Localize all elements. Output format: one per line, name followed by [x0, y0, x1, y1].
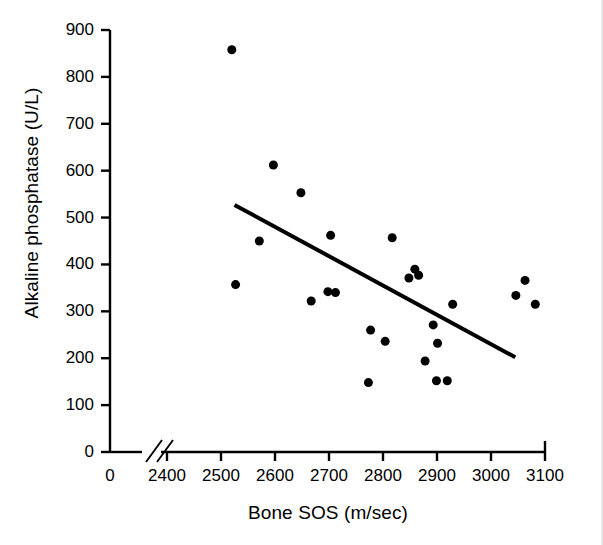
x-tick-label: 3100 — [526, 466, 564, 486]
x-tick-label: 2500 — [202, 466, 240, 486]
data-point — [366, 326, 375, 335]
data-point — [404, 274, 413, 283]
data-point — [414, 271, 423, 280]
data-point — [511, 291, 520, 300]
data-point — [521, 276, 530, 285]
x-tick-label: 2600 — [256, 466, 294, 486]
data-point — [323, 287, 332, 296]
x-axis-title-text: Bone SOS (m/sec) — [248, 502, 408, 524]
data-point — [531, 300, 540, 309]
x-tick-label: 2800 — [364, 466, 402, 486]
data-point — [429, 320, 438, 329]
data-point — [421, 357, 430, 366]
data-point — [255, 237, 264, 246]
y-tick-label: 700 — [66, 114, 94, 134]
axes-group — [101, 30, 545, 462]
data-point — [432, 376, 441, 385]
data-point — [448, 300, 457, 309]
y-tick-label: 300 — [66, 301, 94, 321]
y-tick-label: 900 — [66, 20, 94, 40]
x-tick-label: 2900 — [418, 466, 456, 486]
data-point — [364, 378, 373, 387]
data-point — [296, 188, 305, 197]
data-point — [227, 45, 236, 54]
data-point — [443, 376, 452, 385]
data-point — [326, 231, 335, 240]
y-tick-label: 600 — [66, 161, 94, 181]
y-tick-label: 800 — [66, 67, 94, 87]
y-tick-label: 400 — [66, 254, 94, 274]
data-point — [269, 161, 278, 170]
x-tick-label: 2400 — [148, 466, 186, 486]
y-tick-label: 0 — [85, 442, 94, 462]
y-tick-label: 200 — [66, 348, 94, 368]
trendline — [235, 205, 516, 357]
x-tick-label: 3000 — [472, 466, 510, 486]
x-tick-label: 2700 — [310, 466, 348, 486]
x-axis-title: Bone SOS (m/sec) — [110, 500, 546, 526]
data-point — [433, 339, 442, 348]
y-tick-label: 100 — [66, 395, 94, 415]
data-point — [231, 280, 240, 289]
data-point — [381, 337, 390, 346]
data-point — [331, 288, 340, 297]
data-points — [227, 45, 539, 387]
data-point — [307, 297, 316, 306]
x-tick-label: 0 — [105, 466, 114, 486]
y-tick-label: 500 — [66, 208, 94, 228]
scatter-chart: 0100200300400500600700800900 02400250026… — [0, 0, 603, 545]
data-point — [388, 233, 397, 242]
